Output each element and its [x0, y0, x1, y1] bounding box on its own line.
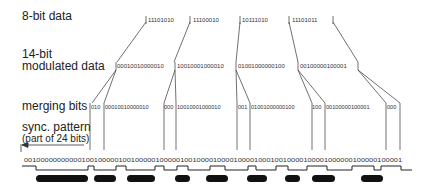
pit	[247, 175, 267, 182]
pit	[206, 175, 228, 182]
channel-bits: 0010000000000010010000010010000010000010…	[24, 157, 402, 163]
diagram-graphics: 11101010 11100010 10111010 11101011 0001…	[0, 0, 426, 194]
pit	[127, 175, 155, 182]
merge-word-3: 01001000000100	[251, 104, 295, 110]
efm-encoding-diagram: 8-bit data 14-bit modulated data merging…	[0, 0, 426, 194]
pit-row	[36, 175, 383, 182]
map-lines-8-to-14	[117, 22, 358, 62]
pit	[36, 175, 88, 182]
merge-3: 001	[238, 104, 247, 110]
merge-guide-lines	[90, 103, 400, 150]
nrzi-waveform	[22, 166, 412, 170]
byte-1: 11101010	[148, 17, 174, 23]
pit	[175, 175, 190, 182]
byte-2: 11100010	[193, 17, 219, 23]
pit	[94, 175, 116, 182]
word14-3: 01001000000100	[238, 63, 285, 69]
word14-2: 10010001000010	[177, 63, 224, 69]
word14-1: 00010010000010	[117, 63, 164, 69]
pit	[285, 175, 300, 182]
map-lines-14-to-merging	[92, 70, 400, 103]
fourteen-bit-row: 00010010000010 10010001000010 0100100000…	[117, 63, 347, 69]
merge-word-2: 10010001000010	[177, 104, 221, 110]
sync-arrow	[21, 143, 84, 153]
word14-4: 00100000100001	[300, 63, 347, 69]
merge-2: 000	[164, 104, 173, 110]
merge-1: 010	[91, 104, 100, 110]
merge-word-4: 00100000100001	[326, 104, 370, 110]
merge-5: 000	[387, 104, 396, 110]
pit	[312, 175, 335, 182]
eight-bit-row: 11101010 11100010 10111010 11101011	[148, 17, 318, 23]
merging-row: 010 00010010000010 000 10010001000010 00…	[91, 104, 396, 110]
byte-4: 11101011	[292, 17, 318, 23]
byte-3: 10111010	[242, 17, 268, 23]
merge-word-1: 00010010000010	[105, 104, 149, 110]
pit	[361, 175, 383, 182]
merge-4: 100	[312, 104, 321, 110]
